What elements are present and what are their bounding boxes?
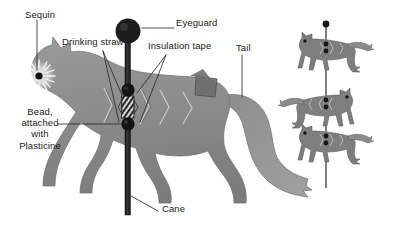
insulation-tape-wrap xyxy=(122,96,135,118)
small-cat-3 xyxy=(298,124,374,164)
label-cane: Cane xyxy=(162,203,185,214)
label-sequin: Sequin xyxy=(25,9,55,20)
label-drinking-straw: Drinking straw xyxy=(62,36,124,47)
label-insulation-tape: Insulation tape xyxy=(148,40,211,51)
leader-cane xyxy=(131,196,158,211)
label-bead-line-4: Plasticine xyxy=(9,140,71,151)
bead-lower xyxy=(121,117,134,130)
small-pole-knob xyxy=(323,21,330,28)
label-tail: Tail xyxy=(236,42,251,53)
small-cat-2 xyxy=(278,88,354,128)
label-bead-line-1: Bead, xyxy=(9,106,71,117)
diagram-canvas: Sequin Eyeguard Drinking straw Insulatio… xyxy=(0,0,398,227)
sequin xyxy=(23,60,55,92)
bead-upper xyxy=(121,83,134,96)
label-eyeguard: Eyeguard xyxy=(176,17,217,28)
label-bead-line-2: attached xyxy=(9,117,71,128)
sequin-dot xyxy=(35,72,42,79)
small-cat-1 xyxy=(298,32,374,72)
small-cats-group xyxy=(278,21,374,188)
label-bead-line-3: with xyxy=(9,128,71,139)
label-bead: Bead, attached with Plasticine xyxy=(9,106,71,151)
